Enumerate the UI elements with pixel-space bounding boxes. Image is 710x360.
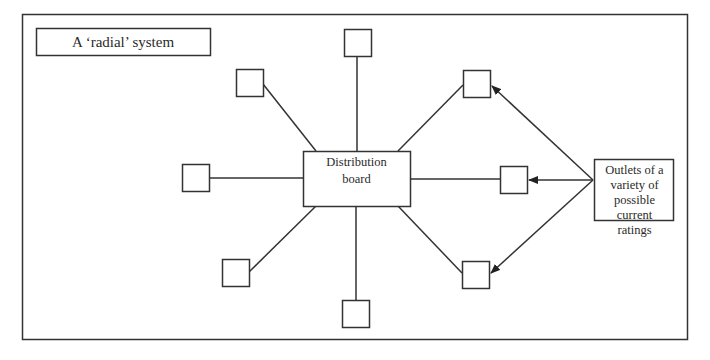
outlet-box-upper-left — [237, 70, 264, 97]
board-label-line-2: board — [303, 171, 410, 188]
distribution-board-label: Distribution board — [303, 154, 410, 188]
line-upper-left — [263, 84, 316, 151]
board-label-line-1: Distribution — [303, 154, 410, 171]
outlet-box-left — [183, 165, 210, 192]
outlet-box-top — [345, 30, 372, 57]
annotation-line-5: ratings — [595, 223, 674, 238]
annotation-line-3: possible — [595, 193, 674, 208]
annotation-label: Outlets of a variety of possible current… — [595, 163, 674, 238]
outlet-box-upper-right — [464, 71, 491, 98]
annotation-line-1: Outlets of a — [595, 163, 674, 178]
outlet-box-bottom — [343, 301, 370, 328]
line-lower-right — [398, 206, 462, 273]
line-lower-left — [249, 206, 316, 272]
outlet-box-right — [501, 167, 528, 194]
line-upper-right — [398, 85, 463, 151]
annotation-line-4: current — [595, 208, 674, 223]
diagram-title: A ‘radial’ system — [36, 28, 210, 56]
annotation-line-2: variety of — [595, 178, 674, 193]
outlet-box-lower-right — [463, 262, 490, 289]
outlet-box-lower-left — [223, 260, 250, 287]
